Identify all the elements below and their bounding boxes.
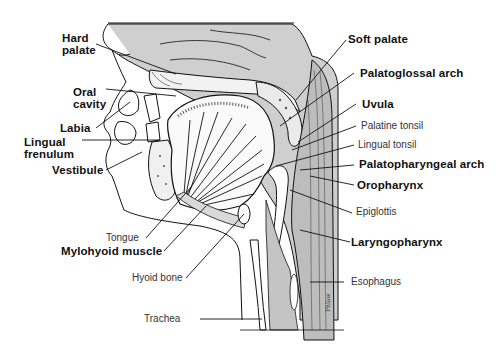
label-oral-cavity: Oral cavity: [73, 86, 106, 110]
upper-teeth: [144, 94, 160, 122]
label-trachea: Trachea: [144, 314, 180, 325]
label-vestibule: Vestibule: [52, 164, 103, 176]
label-laryngopharynx: Laryngopharynx: [351, 236, 443, 248]
label-palatopharyngeal-arch: Palatopharyngeal arch: [359, 158, 484, 170]
label-soft-palate: Soft palate: [348, 33, 408, 45]
label-uvula: Uvula: [362, 98, 394, 110]
artist-signature: Phlaw: [324, 293, 331, 312]
label-lingual-tonsil: Lingual tonsil: [358, 140, 416, 151]
label-lingual-frenulum: Lingual frenulum: [24, 136, 74, 160]
label-palatoglossal-arch: Palatoglossal arch: [360, 67, 463, 79]
label-hard-palate: Hard palate: [62, 32, 96, 56]
anatomy-diagram: Hard palate Oral cavity Labia Lingual fr…: [0, 0, 504, 344]
lower-lip: [115, 121, 136, 144]
label-palatine-tonsil: Palatine tonsil: [361, 121, 423, 132]
trachea: [250, 240, 266, 330]
label-tongue: Tongue: [106, 233, 139, 244]
label-mylohyoid-muscle: Mylohyoid muscle: [61, 245, 162, 257]
label-esophagus: Esophagus: [351, 277, 401, 288]
label-oropharynx: Oropharynx: [357, 179, 423, 191]
label-labia: Labia: [60, 122, 91, 134]
lower-teeth: [146, 122, 160, 142]
label-epiglottis: Epiglottis: [356, 207, 397, 218]
label-hyoid-bone: Hyoid bone: [132, 273, 183, 284]
